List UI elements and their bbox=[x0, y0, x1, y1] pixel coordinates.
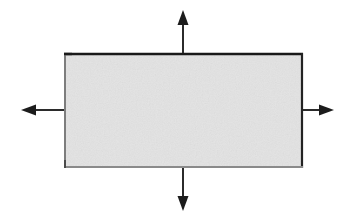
diagram-svg bbox=[0, 0, 356, 220]
figure-canvas: Rectangle with four outward expansion ar… bbox=[0, 0, 356, 220]
body-rectangle bbox=[64, 53, 303, 168]
body-fill-texture bbox=[65, 54, 302, 167]
